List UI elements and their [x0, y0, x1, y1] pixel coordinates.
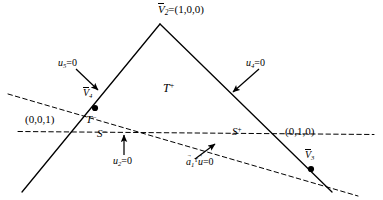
label-region-t-plus: T+	[163, 82, 174, 94]
label-region-t-minus: T−	[86, 114, 96, 125]
t-plus-base: T	[163, 81, 170, 95]
label-hyperplane-equation: a1Tu=0	[186, 157, 214, 168]
triangle-left-edge	[22, 24, 160, 192]
u5-equals: =0	[66, 57, 77, 68]
v4-subscript: 4	[89, 92, 92, 99]
v3-subscript: 3	[311, 154, 314, 161]
diagram-svg	[0, 0, 383, 200]
s-minus-sign: −	[103, 128, 107, 136]
label-vertex-v3: V3	[305, 150, 314, 161]
arrow-u4	[233, 69, 259, 92]
label-region-s-minus: S−	[97, 128, 107, 139]
t-plus-sign: +	[170, 81, 174, 90]
figure-canvas: V2=(1,0,0) V4 V3 u5=0 u4=0 u2=0 T+ T− S−…	[0, 0, 383, 200]
t-minus-sign: −	[92, 114, 96, 122]
label-coordinate-left: (0,0,1)	[25, 114, 54, 125]
a-vector-symbol: a	[186, 157, 191, 167]
label-constraint-u4: u4=0	[246, 58, 265, 69]
v2-symbol: V	[158, 4, 165, 15]
label-constraint-u5: u5=0	[58, 58, 77, 69]
vertex-dot-v3	[308, 166, 314, 172]
v2-coords: =(1,0,0)	[168, 3, 204, 15]
label-vertex-v2: V2=(1,0,0)	[158, 4, 204, 17]
u2-equals: =0	[121, 155, 132, 166]
vertex-dot-v4	[92, 105, 98, 111]
label-region-s-plus: S+	[232, 126, 242, 137]
s-plus-sign: +	[238, 126, 242, 134]
v3-symbol: V	[305, 150, 311, 160]
u4-equals: =0	[254, 57, 265, 68]
label-vertex-v4: V4	[83, 88, 92, 99]
label-coordinate-right: (0,1,0)	[285, 126, 314, 137]
hyperplane-equals: =0	[203, 156, 214, 167]
dashed-line-lower	[18, 132, 374, 135]
label-constraint-u2: u2=0	[113, 156, 132, 167]
v4-symbol: V	[83, 88, 89, 98]
u-vector-symbol: u	[198, 157, 203, 167]
